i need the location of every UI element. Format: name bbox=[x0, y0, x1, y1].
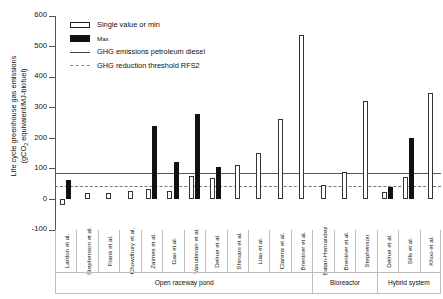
min-swatch bbox=[70, 22, 90, 28]
y-axis-tick-label: 600 bbox=[21, 10, 47, 19]
y-axis-tick-label: 0 bbox=[21, 194, 47, 203]
x-axis-category-label: Frank et al. bbox=[106, 235, 113, 266]
y-axis-title-line2: (gCO2 equivalent/MJ-biofuel) bbox=[19, 68, 29, 163]
x-axis-category-label: Chowdhury et al. bbox=[127, 227, 134, 273]
bar-max bbox=[409, 138, 414, 199]
x-axis-category-label: Batan-Hernandez bbox=[320, 226, 327, 275]
bar-min bbox=[342, 172, 347, 199]
bar-min bbox=[85, 193, 90, 199]
x-axis-category-labels: Lardon et al.Stephenson et al.Frank et a… bbox=[55, 230, 441, 272]
bar-min bbox=[189, 176, 194, 199]
x-axis-category-label: Stephenson bbox=[363, 234, 370, 267]
reference-line-petroleum-diesel bbox=[55, 173, 441, 174]
bar-min bbox=[299, 35, 304, 199]
x-axis-category-label: Clarens et al. bbox=[277, 232, 284, 268]
bar-min bbox=[278, 119, 283, 199]
solid-line bbox=[70, 52, 90, 53]
bar-max bbox=[388, 187, 393, 199]
x-axis-category: Sills et al. bbox=[398, 230, 419, 272]
x-axis-category-label: Sills et al. bbox=[406, 237, 413, 263]
dashed-line bbox=[70, 65, 90, 66]
x-axis-category-label: Liao et al. bbox=[256, 237, 263, 264]
reference-line-rfs2 bbox=[55, 186, 441, 187]
x-axis-category-label: Stephenson et al. bbox=[84, 226, 91, 274]
x-axis-category: Clarens et al. bbox=[269, 230, 290, 272]
y-axis-tick-label: 200 bbox=[21, 133, 47, 142]
legend-item-label: Single value or min bbox=[92, 20, 160, 29]
bar-min bbox=[60, 199, 65, 205]
bar-min bbox=[128, 191, 133, 199]
x-axis-group-label: Open raceway pond bbox=[55, 272, 312, 294]
x-axis-category: Batan-Hernandez bbox=[312, 230, 333, 272]
bar-max bbox=[195, 114, 200, 199]
bar-min bbox=[363, 101, 368, 199]
bar-min bbox=[256, 153, 261, 199]
bar-max bbox=[66, 180, 71, 199]
x-axis-group-labels: Open raceway pondBioreactorHybrid system bbox=[55, 272, 441, 294]
max-swatch bbox=[70, 35, 90, 42]
bar-min bbox=[146, 189, 151, 199]
legend-item: GHG reduction threshold RFS2 bbox=[70, 59, 270, 73]
bar-min bbox=[210, 178, 215, 199]
x-axis-category-label: Vasudevan et al. bbox=[191, 228, 198, 274]
chart-figure: Life cycle greenhouse gas emissions (gCO… bbox=[0, 0, 443, 299]
bar-min bbox=[382, 192, 387, 199]
y-axis-tick-label: 400 bbox=[21, 71, 47, 80]
bar-max bbox=[216, 167, 221, 199]
legend-item: Single value or min bbox=[70, 18, 270, 32]
x-axis-category: Stephenson bbox=[355, 230, 376, 272]
y-axis-tick-label: 300 bbox=[21, 102, 47, 111]
x-axis-group-label: Hybrid system bbox=[377, 272, 441, 294]
y-axis-title-line1: Life cycle greenhouse gas emissions bbox=[9, 56, 19, 177]
legend-item-label: GHG emissions petroleum diesel bbox=[92, 47, 205, 56]
max-swatch-icon bbox=[70, 32, 92, 46]
y-axis-tick-label: 500 bbox=[21, 41, 47, 50]
min-swatch-icon bbox=[70, 18, 92, 32]
legend-item: Max bbox=[70, 32, 270, 46]
x-axis-category: Frank et al. bbox=[98, 230, 119, 272]
x-axis-category-label: Khoo et al. bbox=[427, 236, 434, 266]
x-axis-category: Delrue et al. bbox=[205, 230, 226, 272]
x-axis-category: Khoo et al. bbox=[420, 230, 441, 272]
x-axis-category: Brentner et al. bbox=[291, 230, 312, 272]
x-axis-category: Delrue et al. bbox=[377, 230, 398, 272]
legend-item-label: GHG reduction threshold RFS2 bbox=[92, 61, 200, 70]
x-axis-category-label: Delrue et al. bbox=[213, 234, 220, 267]
x-axis-category-label: Lardon et al. bbox=[63, 233, 70, 267]
x-axis-group-label: Bioreactor bbox=[312, 272, 376, 294]
x-axis-category-label: Zaimes et al. bbox=[148, 233, 155, 268]
x-axis-category: Shirvani et al. bbox=[227, 230, 248, 272]
bar-min bbox=[106, 193, 111, 199]
x-axis-category-label: Brentner et al. bbox=[341, 231, 348, 270]
x-axis-category: Gao et al. bbox=[162, 230, 183, 272]
x-axis-category: Lardon et al. bbox=[55, 230, 76, 272]
x-axis-category-label: Shirvani et al. bbox=[234, 232, 241, 270]
chart-legend: Single value or minMaxGHG emissions petr… bbox=[70, 18, 270, 72]
bar-min bbox=[235, 165, 240, 199]
x-axis-category: Zaimes et al. bbox=[141, 230, 162, 272]
y-axis-title-subscript: 2 bbox=[23, 143, 29, 146]
x-axis-category: Stephenson et al. bbox=[76, 230, 97, 272]
x-axis-category-label: Delrue et al. bbox=[384, 234, 391, 267]
bar-min bbox=[321, 185, 326, 199]
bar-min bbox=[167, 191, 172, 199]
legend-item-label: Max bbox=[92, 35, 109, 42]
y-axis-title-pre: (gCO bbox=[19, 146, 28, 164]
x-axis-category-label: Gao et al. bbox=[170, 237, 177, 264]
y-axis-tick-label: -100 bbox=[21, 224, 47, 233]
x-axis-category: Vasudevan et al. bbox=[184, 230, 205, 272]
y-axis-tick-label: 100 bbox=[21, 163, 47, 172]
bar-max bbox=[174, 162, 179, 199]
dashed-line-icon bbox=[70, 59, 92, 73]
x-axis-category: Brentner et al. bbox=[334, 230, 355, 272]
bar-min bbox=[428, 93, 433, 198]
x-axis-category: Chowdhury et al. bbox=[119, 230, 140, 272]
bar-max bbox=[152, 126, 157, 199]
bar-min bbox=[403, 177, 408, 199]
legend-item: GHG emissions petroleum diesel bbox=[70, 45, 270, 59]
x-axis-category-label: Brentner et al. bbox=[299, 231, 306, 270]
x-axis-category: Liao et al. bbox=[248, 230, 269, 272]
solid-line-icon bbox=[70, 45, 92, 59]
